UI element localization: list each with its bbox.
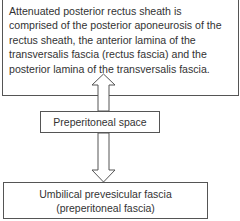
bottom-box-line2: (preperitoneal fascia) [4, 201, 207, 215]
up-arrow-icon [92, 74, 115, 111]
bottom-box-umbilical-prevesicular-fascia: Umbilical prevesicular fascia (preperito… [3, 182, 208, 219]
down-arrow-icon [92, 133, 115, 182]
bottom-box-line1: Umbilical prevesicular fascia [4, 187, 207, 201]
middle-box-preperitoneal-space: Preperitoneal space [40, 111, 160, 133]
middle-box-text: Preperitoneal space [53, 116, 146, 128]
